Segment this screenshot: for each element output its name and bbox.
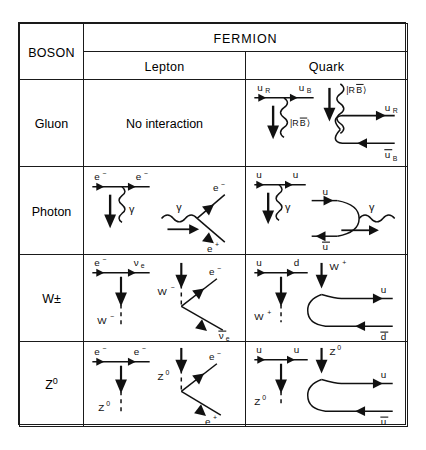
label-sub-R-out: R xyxy=(393,107,398,114)
label-u-in-photon: u xyxy=(256,169,262,180)
quark-cell-gluon: u R u B |R B ⟩ xyxy=(246,80,408,167)
label-e-plus-product-sup: + xyxy=(215,241,219,248)
label-W-minus-sup: − xyxy=(110,313,114,320)
label-Z0-incoming-q-sup: 0 xyxy=(337,344,341,351)
label-e-plus-product: e xyxy=(207,243,213,254)
label-e-minus-in-sup: − xyxy=(102,170,106,177)
quark-header-cell: Quark xyxy=(246,52,408,80)
boson-cell-w: W± xyxy=(20,255,84,342)
label-e-minus-product: e xyxy=(213,182,219,193)
lepton-cell-w: e − ν e W − xyxy=(84,255,246,342)
boson-label-w: W± xyxy=(42,292,61,306)
quark-cell-z: u u Z 0 Z 0 xyxy=(246,342,408,427)
label-ket-close-left: ⟩ xyxy=(307,118,310,128)
boson-label-photon: Photon xyxy=(32,205,72,219)
label-gamma-emitted: γ xyxy=(129,203,135,215)
label-Z0-incoming: Z xyxy=(158,371,164,382)
label-u-R-out: u xyxy=(385,102,391,113)
label-Z0-incoming-sup: 0 xyxy=(165,369,169,376)
label-e-minus-w-in-sup: − xyxy=(102,256,106,263)
label-e-minus-z-in-sup: − xyxy=(102,345,106,352)
w-quark-feynman-diagram: u d W + W + xyxy=(246,255,407,341)
label-ket-close-right: ⟩ xyxy=(363,85,366,95)
label-Z0-emitted-q: Z xyxy=(254,396,260,407)
label-u-B-out: u xyxy=(299,82,305,93)
photon-lepton-feynman-diagram: e − e − γ xyxy=(84,167,245,254)
boson-label-gluon: Gluon xyxy=(35,117,68,131)
label-gamma-incoming: γ xyxy=(176,201,182,213)
label-sub-B-out2: B xyxy=(393,155,398,162)
label-e-minus-out-sup: − xyxy=(144,170,148,177)
label-W-plus-incoming-sup: + xyxy=(342,259,346,266)
lepton-header-label: Lepton xyxy=(144,60,184,74)
label-W-minus-emitted: W xyxy=(97,315,107,326)
label-e-minus-product-sup: − xyxy=(221,181,225,188)
label-nu-e-sub: e xyxy=(141,262,145,269)
label-d-w-out: d xyxy=(294,257,300,268)
table-row-photon: Photon e − e xyxy=(20,167,408,255)
quark-header-label: Quark xyxy=(309,60,345,74)
label-ubar-annihil: u xyxy=(323,241,329,252)
label-W-plus-incoming: W xyxy=(329,261,339,272)
label-u-z-product: u xyxy=(381,369,387,380)
label-u-out-photon: u xyxy=(293,169,299,180)
table-row-z-boson: Z0 e − xyxy=(20,342,408,427)
label-ket-RBbar-right: |R xyxy=(346,85,355,95)
boson-cell-z: Z0 xyxy=(20,342,84,427)
label-W-plus-emitted: W xyxy=(254,311,264,322)
table-row-w-boson: W± e − xyxy=(20,255,408,342)
photon-quark-feynman-diagram: u u γ u xyxy=(246,167,407,254)
label-u-annihil: u xyxy=(323,186,329,197)
label-e-minus-z-product-sup: − xyxy=(217,350,221,357)
label-Bbar-right: B xyxy=(356,85,362,95)
label-W-plus-sup: + xyxy=(267,309,271,316)
label-Bbar-left: B xyxy=(300,118,306,128)
label-W-minus-incoming-sup: − xyxy=(170,284,174,291)
corner-header-cell: BOSON xyxy=(20,24,84,80)
quark-cell-w: u d W + W + xyxy=(246,255,408,342)
label-u-w-product: u xyxy=(381,284,387,295)
z-quark-feynman-diagram: u u Z 0 Z 0 xyxy=(246,342,407,426)
label-ket-RBbar-left: |R xyxy=(290,118,299,128)
w-lepton-feynman-diagram: e − ν e W − xyxy=(84,255,245,341)
label-e-plus-z-product-sup: + xyxy=(213,414,217,421)
label-u-z-in: u xyxy=(256,344,262,355)
label-nubar-e-sub: e xyxy=(226,335,230,341)
label-Z0-emitted-sup: 0 xyxy=(106,400,110,407)
gluon-quark-feynman-diagram: u R u B |R B ⟩ xyxy=(246,80,407,166)
label-e-minus-z-product: e xyxy=(209,351,215,362)
label-e-plus-z-product: e xyxy=(205,416,211,426)
label-e-minus-z-in: e xyxy=(94,346,100,357)
label-e-minus-w-product: e xyxy=(209,266,215,277)
label-nubar-e: ν xyxy=(219,330,224,341)
label-sub-B-out: B xyxy=(307,87,312,94)
lepton-cell-z: e − e − Z 0 xyxy=(84,342,246,427)
boson-cell-gluon: Gluon xyxy=(20,80,84,167)
z-lepton-feynman-diagram: e − e − Z 0 xyxy=(84,342,245,426)
label-e-minus-w-product-sup: − xyxy=(217,265,221,272)
label-u-R-in: u xyxy=(257,82,263,93)
label-W-minus-incoming: W xyxy=(158,286,168,297)
label-ubar-B: u xyxy=(385,149,391,160)
boson-fermion-interaction-table: BOSON FERMION Lepton Quark Gluon No inte… xyxy=(18,22,406,425)
label-sub-R-in: R xyxy=(265,87,270,94)
header-row-fermion: BOSON FERMION xyxy=(20,24,408,52)
no-interaction-label: No interaction xyxy=(126,117,203,131)
table-row-gluon: Gluon No interaction xyxy=(20,80,408,167)
label-u-z-out: u xyxy=(294,344,300,355)
lepton-cell-photon: e − e − γ xyxy=(84,167,246,255)
corner-header-label: BOSON xyxy=(28,46,75,60)
label-Z0-emitted: Z xyxy=(98,402,104,413)
fermion-header-label: FERMION xyxy=(214,32,278,46)
label-gamma-emitted-q: γ xyxy=(285,201,291,213)
label-e-minus-z-out: e xyxy=(134,346,140,357)
interaction-table: BOSON FERMION Lepton Quark Gluon No inte… xyxy=(19,23,408,427)
label-e-minus-out: e xyxy=(136,171,142,182)
label-Z0-incoming-q: Z xyxy=(329,346,335,357)
boson-cell-photon: Photon xyxy=(20,167,84,255)
label-u-w-in: u xyxy=(256,257,262,268)
boson-label-z: Z0 xyxy=(45,378,58,392)
label-gamma-out-q: γ xyxy=(369,201,375,213)
label-e-minus-z-out-sup: − xyxy=(142,345,146,352)
lepton-cell-gluon: No interaction xyxy=(84,80,246,167)
